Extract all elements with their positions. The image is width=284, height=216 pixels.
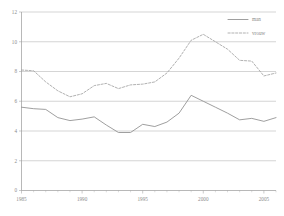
y-tick-label-8: 8: [14, 68, 17, 74]
y-tick-label-12: 12: [12, 9, 18, 15]
y-tick-label-4: 4: [14, 128, 17, 134]
chart-legend: manvrouw: [228, 16, 266, 36]
y-axis-tick-labels: 024681012: [12, 9, 18, 194]
series-line-man: [22, 95, 277, 132]
x-tick-label-2000: 2000: [198, 196, 209, 202]
x-axis-ticks: [22, 191, 277, 194]
x-tick-label-1990: 1990: [77, 196, 88, 202]
x-tick-label-1995: 1995: [138, 196, 149, 202]
line-chart: 024681012 19851990199520002005 manvrouw: [0, 0, 284, 216]
series-line-vrouw: [22, 34, 277, 96]
y-tick-label-0: 0: [14, 187, 17, 193]
y-axis-ticks: [19, 12, 22, 191]
x-tick-label-1985: 1985: [16, 196, 27, 202]
chart-canvas: 024681012 19851990199520002005 manvrouw: [0, 0, 284, 216]
grid-lines: [22, 12, 277, 161]
x-axis-tick-labels: 19851990199520002005: [16, 196, 269, 202]
y-tick-label-6: 6: [14, 98, 17, 104]
x-tick-label-2005: 2005: [259, 196, 270, 202]
legend-label-vrouw: vrouw: [252, 30, 266, 36]
legend-label-man: man: [252, 16, 261, 22]
y-tick-label-10: 10: [12, 39, 18, 45]
y-tick-label-2: 2: [14, 158, 17, 164]
